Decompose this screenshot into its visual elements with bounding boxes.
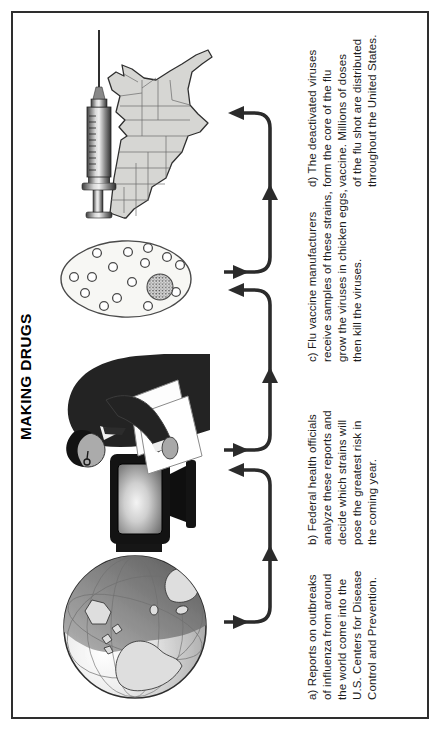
globe-icon xyxy=(58,552,210,702)
syringe-barrel xyxy=(87,107,111,177)
monitor-stand xyxy=(170,466,186,522)
arrowhead-down-icon xyxy=(233,443,249,457)
egg-with-viruses-icon xyxy=(56,228,196,330)
arrowhead-up-icon xyxy=(228,283,244,297)
syringe-ridge xyxy=(88,177,110,183)
step-d-illustration xyxy=(80,28,220,224)
tie xyxy=(103,427,126,435)
caption-step-b: b) Federal health officials analyze thes… xyxy=(305,410,380,545)
man-at-computer-icon xyxy=(52,354,210,552)
diagram-page: MAKING DRUGS xyxy=(0,0,439,730)
caption-step-a: a) Reports on outbreaks of influenza fro… xyxy=(305,570,380,700)
glasses-arm xyxy=(87,451,88,459)
us-map-outline xyxy=(108,50,212,218)
flow-arrow-b-to-c xyxy=(224,290,270,450)
monitor-screen xyxy=(118,464,162,534)
syringe-hub xyxy=(93,87,105,99)
syringe-us-map-icon xyxy=(80,28,220,224)
step-c-illustration xyxy=(56,228,196,330)
arrowhead-down-icon xyxy=(233,265,249,279)
flow-arrow-c-to-d xyxy=(224,113,270,272)
syringe-needle xyxy=(98,30,100,87)
flow-arrow-a-to-b xyxy=(224,470,270,622)
arrowhead-right-icon xyxy=(262,184,278,200)
flow-arrow-paths xyxy=(224,113,270,622)
monitor-base xyxy=(186,460,196,528)
syringe xyxy=(82,30,116,218)
arrowhead-up-icon xyxy=(228,106,244,120)
syringe-plunger-rod xyxy=(93,188,103,212)
caption-step-d: d) The deactivated viruses form the core… xyxy=(305,34,380,187)
arrowhead-right-icon xyxy=(262,545,278,561)
syringe-flange xyxy=(82,183,116,190)
arrowhead-down-icon xyxy=(233,615,249,629)
us-map xyxy=(108,50,212,218)
arrowhead-up-icon xyxy=(228,463,244,477)
hand xyxy=(162,437,178,459)
step-b-illustration xyxy=(52,354,210,552)
syringe-thumb-rest xyxy=(86,212,112,218)
virus-sphere xyxy=(147,274,173,300)
caption-step-c: c) Flu vaccine manufacturers receive sam… xyxy=(305,189,365,362)
step-a-illustration xyxy=(58,552,210,702)
arrowhead-right-icon xyxy=(262,367,278,383)
syringe-collar xyxy=(91,99,107,107)
